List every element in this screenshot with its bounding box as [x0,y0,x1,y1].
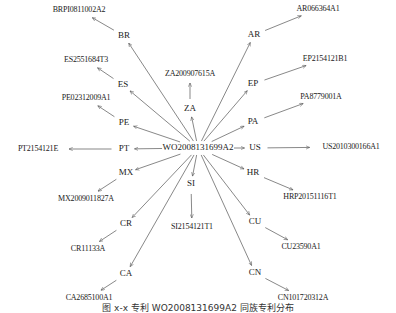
patent-node-us: US2010300166A1 [322,142,379,151]
edge-hr-to-patent [264,178,293,190]
country-node-pt: PT [119,143,130,153]
patent-node-pa: PA8779001A [300,92,342,101]
edge-root-to-ca [130,155,194,267]
figure-caption: 图 x-x 专利 WO2008131699A2 同族专利分布 [102,302,293,313]
edge-root-to-pe [134,126,180,142]
edge-root-to-br [129,43,194,141]
country-node-za: ZA [184,103,196,113]
country-node-br: BR [118,30,130,40]
country-node-ep: EP [248,78,259,88]
country-node-pa: PA [248,116,259,126]
patent-node-es: ES2551684T3 [64,55,108,64]
edge-root-to-ep [204,91,247,141]
country-node-mx: MX [119,167,134,177]
country-node-es: ES [118,79,129,89]
patent-node-cn: CN101720312A [278,293,329,302]
edge-root-to-mx [136,154,181,170]
edge-cu-to-patent [265,228,287,240]
patent-node-si: SI2154121T1 [171,222,213,231]
edge-root-to-si [193,155,197,176]
edge-ar-to-patent [265,16,301,31]
edge-root-to-cn [201,155,251,265]
country-node-ca: CA [120,268,133,278]
country-node-cn: CN [249,267,262,277]
patent-node-ar: AR066364A1 [297,4,340,13]
edge-pe-to-patent [98,106,115,117]
country-node-hr: HR [247,167,260,177]
patent-family-diagram: WO2008131699A2 BRBRPI0811002A2ARAR066364… [0,0,396,313]
country-node-cr: CR [120,218,132,228]
patent-node-mx: MX2009011827A [58,194,114,203]
root-patent-label: WO2008131699A2 [163,142,234,152]
edge-cr-to-patent [99,230,116,241]
patent-node-cr: CR11133A [71,244,106,253]
edge-root-to-es [130,91,190,141]
country-node-pe: PE [119,117,130,127]
country-node-ar: AR [248,29,261,39]
patent-node-za: ZA200907615A [165,69,215,78]
patent-node-hr: HRP20151116T1 [283,192,336,201]
country-node-cu: CU [249,216,262,226]
patent-node-pt: PT2154121E [18,144,59,153]
patent-node-ca: CA2685100A1 [66,293,113,302]
edge-mx-to-patent [98,179,116,191]
patent-node-ep: EP2154121B1 [303,54,348,63]
nodes-layer: WO2008131699A2 BRBRPI0811002A2ARAR066364… [18,4,380,302]
country-node-us: US [249,142,261,152]
edge-root-to-cu [203,155,249,215]
patent-node-br: BRPI0811002A2 [53,5,106,14]
patent-node-cu: CU23590A1 [281,242,320,251]
edge-pa-to-patent [264,104,303,118]
patent-node-pe: PE02312009A1 [62,93,111,102]
edge-cn-to-patent [265,278,288,290]
country-node-si: SI [187,178,195,188]
edge-si-to-patent [191,194,192,218]
edge-root-to-hr [212,154,244,168]
edge-ep-to-patent [264,66,306,80]
edge-root-to-cr [132,155,191,218]
edge-br-to-patent [92,18,114,31]
edge-root-to-za [192,117,197,141]
edge-ca-to-patent [101,280,116,290]
edge-root-to-pa [212,126,244,141]
edge-root-to-ar [201,42,250,141]
edge-es-to-patent [98,68,114,79]
